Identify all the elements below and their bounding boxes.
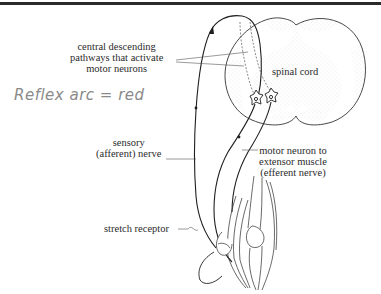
spinal-cord-label: spinal cord — [272, 66, 318, 77]
sensory-nerve-label: sensory (afferent) nerve — [96, 137, 161, 159]
handwritten-annotation: Reflex arc = red — [14, 86, 145, 104]
stretch-receptor-label: stretch receptor — [104, 223, 169, 234]
central-pathways-label: central descending pathways that activat… — [70, 41, 163, 74]
motor-neuron-label: motor neuron to extensor muscle (efferen… — [259, 145, 327, 178]
knee-muscle-illustration — [216, 176, 276, 290]
